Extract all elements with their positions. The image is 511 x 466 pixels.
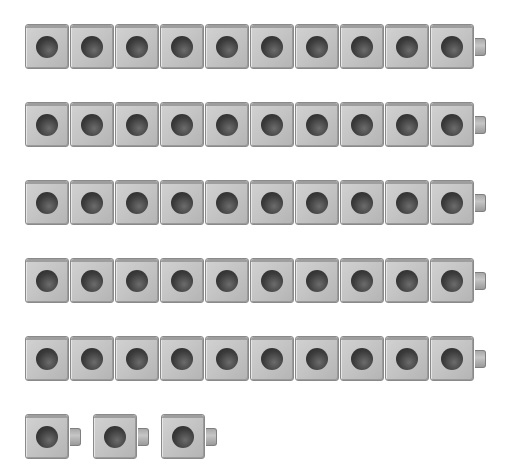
- ten-rod-5: [25, 336, 486, 381]
- unit-cube: [430, 180, 474, 225]
- cube-hole-icon: [396, 36, 418, 58]
- unit-cube: [385, 102, 429, 147]
- unit-cube: [340, 336, 384, 381]
- cube-peg-icon: [475, 350, 486, 368]
- cube-hole-icon: [216, 348, 238, 370]
- unit-cube: [250, 258, 294, 303]
- cube-hole-icon: [351, 36, 373, 58]
- unit-cube: [161, 414, 205, 459]
- unit-cube: [25, 180, 69, 225]
- cube-hole-icon: [126, 114, 148, 136]
- cube-hole-icon: [172, 426, 194, 448]
- cube-hole-icon: [216, 270, 238, 292]
- unit-cube: [340, 180, 384, 225]
- ten-rod-2: [25, 102, 486, 147]
- cube-hole-icon: [36, 192, 58, 214]
- cube-hole-icon: [261, 192, 283, 214]
- unit-cube: [70, 180, 114, 225]
- unit-cube: [70, 102, 114, 147]
- cube-hole-icon: [351, 192, 373, 214]
- unit-cube: [160, 102, 204, 147]
- unit-cube: [115, 24, 159, 69]
- unit-cube: [25, 102, 69, 147]
- cube-hole-icon: [396, 114, 418, 136]
- unit-cube: [205, 258, 249, 303]
- unit-cube: [70, 258, 114, 303]
- cube-peg-icon: [475, 272, 486, 290]
- cube-hole-icon: [126, 348, 148, 370]
- unit-cube: [93, 414, 137, 459]
- cube-hole-icon: [306, 114, 328, 136]
- unit-cube: [25, 258, 69, 303]
- cube-hole-icon: [36, 270, 58, 292]
- unit-cube: [250, 336, 294, 381]
- unit-cube: [430, 336, 474, 381]
- cube-hole-icon: [126, 36, 148, 58]
- cube-hole-icon: [36, 114, 58, 136]
- unit-cube: [295, 180, 339, 225]
- cube-hole-icon: [261, 270, 283, 292]
- cube-peg-icon: [475, 38, 486, 56]
- unit-cube: [250, 102, 294, 147]
- cube-hole-icon: [36, 426, 58, 448]
- cube-hole-icon: [126, 192, 148, 214]
- cube-hole-icon: [36, 36, 58, 58]
- unit-cube: [340, 258, 384, 303]
- unit-cube: [25, 336, 69, 381]
- single-cube: [93, 414, 149, 459]
- unit-cube: [295, 258, 339, 303]
- cube-hole-icon: [81, 114, 103, 136]
- cube-peg-icon: [206, 428, 217, 446]
- cube-hole-icon: [216, 114, 238, 136]
- cube-hole-icon: [441, 192, 463, 214]
- ten-rod-1: [25, 24, 486, 69]
- unit-cube: [160, 24, 204, 69]
- unit-cube: [205, 180, 249, 225]
- cube-hole-icon: [81, 192, 103, 214]
- cube-hole-icon: [104, 426, 126, 448]
- unit-cube: [70, 336, 114, 381]
- unit-cube: [295, 336, 339, 381]
- cube-hole-icon: [81, 270, 103, 292]
- unit-cube: [385, 258, 429, 303]
- unit-cube: [430, 24, 474, 69]
- cube-hole-icon: [261, 36, 283, 58]
- cube-hole-icon: [81, 348, 103, 370]
- unit-cube: [205, 102, 249, 147]
- single-cube: [161, 414, 217, 459]
- cube-hole-icon: [396, 348, 418, 370]
- cube-hole-icon: [216, 36, 238, 58]
- unit-cube: [25, 24, 69, 69]
- unit-cube: [430, 258, 474, 303]
- unit-cube: [250, 180, 294, 225]
- unit-cube: [385, 180, 429, 225]
- cube-hole-icon: [261, 114, 283, 136]
- ten-rod-4: [25, 258, 486, 303]
- unit-cube: [340, 24, 384, 69]
- cube-hole-icon: [261, 348, 283, 370]
- cube-hole-icon: [441, 36, 463, 58]
- unit-cube: [115, 258, 159, 303]
- cube-hole-icon: [171, 348, 193, 370]
- ten-rod-3: [25, 180, 486, 225]
- unit-cube: [295, 102, 339, 147]
- unit-cube: [205, 24, 249, 69]
- unit-cube: [115, 180, 159, 225]
- cube-hole-icon: [306, 36, 328, 58]
- cube-hole-icon: [306, 270, 328, 292]
- cube-hole-icon: [441, 114, 463, 136]
- cube-hole-icon: [351, 114, 373, 136]
- unit-cube: [430, 102, 474, 147]
- cube-peg-icon: [475, 116, 486, 134]
- cube-hole-icon: [171, 36, 193, 58]
- cube-hole-icon: [306, 348, 328, 370]
- cube-hole-icon: [171, 192, 193, 214]
- unit-cube: [160, 180, 204, 225]
- unit-cube: [160, 258, 204, 303]
- cube-hole-icon: [396, 270, 418, 292]
- cube-hole-icon: [36, 348, 58, 370]
- cube-hole-icon: [306, 192, 328, 214]
- unit-cube: [340, 102, 384, 147]
- cube-hole-icon: [396, 192, 418, 214]
- cube-hole-icon: [81, 36, 103, 58]
